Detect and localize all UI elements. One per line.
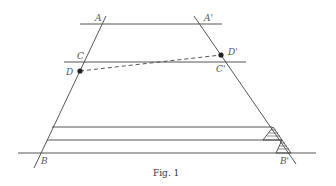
label-a-prime: A' — [203, 13, 213, 23]
label-c-prime: C' — [216, 64, 225, 74]
figure-caption: Fig. 1 — [153, 168, 179, 178]
hatched-triangle-upper — [263, 127, 282, 140]
point-d — [77, 68, 82, 73]
left-side-line — [34, 16, 106, 168]
point-d-prime — [218, 52, 223, 57]
label-a: A — [94, 13, 102, 23]
label-d: D — [65, 67, 73, 77]
label-b: B — [40, 156, 48, 166]
dashed-line-d-d-prime — [80, 55, 221, 71]
label-d-prime: D' — [227, 47, 238, 57]
label-b-prime: B' — [279, 156, 289, 166]
label-c: C — [77, 51, 84, 61]
diagram-figure: A A' C C' D D' B B' Fig. 1 — [0, 0, 336, 186]
